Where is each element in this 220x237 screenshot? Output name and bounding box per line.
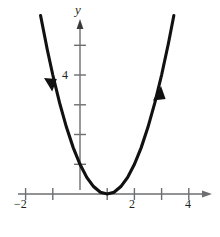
y-axis-arrowhead	[77, 19, 84, 29]
x-tick-label-2: 2	[129, 198, 135, 210]
x-tick-label-4: 4	[185, 198, 191, 210]
parabola-curve	[41, 16, 174, 195]
y-tick-label-4: 4	[62, 69, 68, 81]
x-tick-label-neg2: −2	[14, 198, 27, 210]
parabola-figure: −2 2 4 4 y	[0, 0, 220, 237]
x-axis-arrowhead	[202, 191, 212, 198]
y-axis-label: y	[75, 3, 81, 16]
